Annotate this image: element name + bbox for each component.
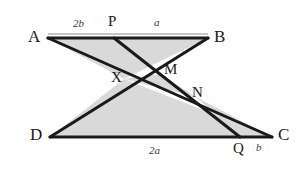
measure-label-QC: b xyxy=(256,142,262,153)
vertex-label-A: A xyxy=(28,28,40,45)
point-label-X: X xyxy=(111,70,122,85)
point-label-M: M xyxy=(164,62,177,77)
measure-label-AP: 2b xyxy=(73,18,84,29)
measure-label-PB: a xyxy=(154,17,160,28)
point-label-Q: Q xyxy=(233,141,244,156)
point-label-P: P xyxy=(108,14,116,29)
vertex-label-D: D xyxy=(30,126,42,143)
measure-label-DQ: 2a xyxy=(149,145,160,156)
point-label-N: N xyxy=(192,85,203,100)
geometry-figure: A B C D P Q X M N 2b a 2a b xyxy=(0,0,306,170)
vertex-label-C: C xyxy=(278,126,289,143)
vertex-label-B: B xyxy=(214,28,225,45)
